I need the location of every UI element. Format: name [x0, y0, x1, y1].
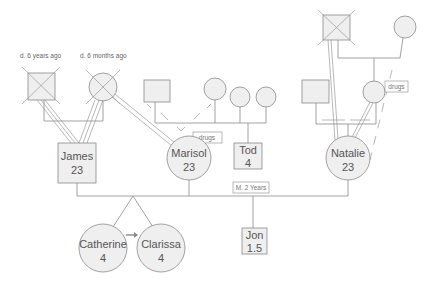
- main-family-line: [77, 180, 348, 196]
- person-tod[interactable]: Tod 4: [234, 143, 262, 169]
- tod-name: Tod: [239, 144, 257, 156]
- distant-mark: [207, 104, 211, 108]
- person-clarissa[interactable]: Clarissa 4: [137, 224, 185, 272]
- catherine-name: Catherine: [79, 238, 127, 250]
- marisol-age: 23: [183, 161, 195, 173]
- james-father-deceased[interactable]: [22, 67, 60, 104]
- natalie-grandfather-deceased[interactable]: [318, 10, 355, 45]
- genogram-diagram: d. 6 years ago d. 6 months ago James 23: [0, 0, 432, 289]
- natalie-father[interactable]: [302, 80, 329, 103]
- natalie-age: 23: [342, 161, 354, 173]
- person-james[interactable]: James 23: [58, 143, 96, 183]
- james-age: 23: [71, 164, 83, 176]
- person-jon[interactable]: Jon 1.5: [242, 228, 267, 254]
- tod-age: 4: [245, 157, 251, 169]
- clarissa-name: Clarissa: [141, 238, 182, 250]
- catherine-age: 4: [100, 252, 106, 264]
- james-mother-bond-lines: [79, 100, 103, 143]
- svg-text:M. 2 Years: M. 2 Years: [236, 184, 267, 191]
- distant-mark: [161, 113, 168, 120]
- clarissa-age: 4: [158, 252, 164, 264]
- death-note-grandmother: d. 6 months ago: [80, 52, 127, 60]
- natalie-name: Natalie: [331, 147, 365, 159]
- marisol-name: Marisol: [171, 147, 206, 159]
- jon-age: 1.5: [247, 242, 262, 254]
- marisol-father[interactable]: [144, 80, 170, 102]
- twins-connector: [113, 196, 153, 227]
- marisol-mother[interactable]: [204, 78, 226, 100]
- james-father-bond-lines: [37, 100, 79, 143]
- distant-mark: [194, 113, 200, 119]
- marisol-sibling-1[interactable]: [230, 87, 250, 107]
- person-catherine[interactable]: Catherine 4: [79, 224, 127, 272]
- death-note-grandfather: d. 6 years ago: [20, 52, 62, 60]
- arrow-right-icon: [126, 232, 138, 238]
- natalie-drugs-tag: drugs: [385, 81, 408, 92]
- james-name: James: [61, 150, 94, 162]
- natalie-grandparents-line: [338, 38, 403, 58]
- marisol-sibling-2[interactable]: [256, 87, 276, 107]
- person-natalie[interactable]: Natalie 23: [326, 136, 370, 180]
- natalie-grandmother[interactable]: [394, 16, 416, 38]
- natalie-grandfather-bond-lines: [328, 40, 338, 140]
- james-mother-deceased[interactable]: [86, 70, 120, 104]
- jon-name: Jon: [246, 229, 264, 241]
- marriage-duration-tag: M. 2 Years: [233, 182, 269, 193]
- person-marisol[interactable]: Marisol 23: [167, 136, 211, 180]
- distant-mark: [147, 104, 151, 108]
- svg-text:drugs: drugs: [388, 83, 405, 91]
- natalie-parents-line: [316, 103, 376, 124]
- natalie-mother[interactable]: [363, 81, 385, 103]
- marisol-parents-line: [155, 102, 266, 123]
- v-mark: [177, 127, 185, 131]
